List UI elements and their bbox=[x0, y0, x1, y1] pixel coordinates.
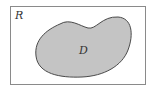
region-d-label: D bbox=[78, 44, 88, 57]
region-diagram: R D bbox=[0, 0, 156, 91]
region-r-label: R bbox=[14, 9, 23, 22]
